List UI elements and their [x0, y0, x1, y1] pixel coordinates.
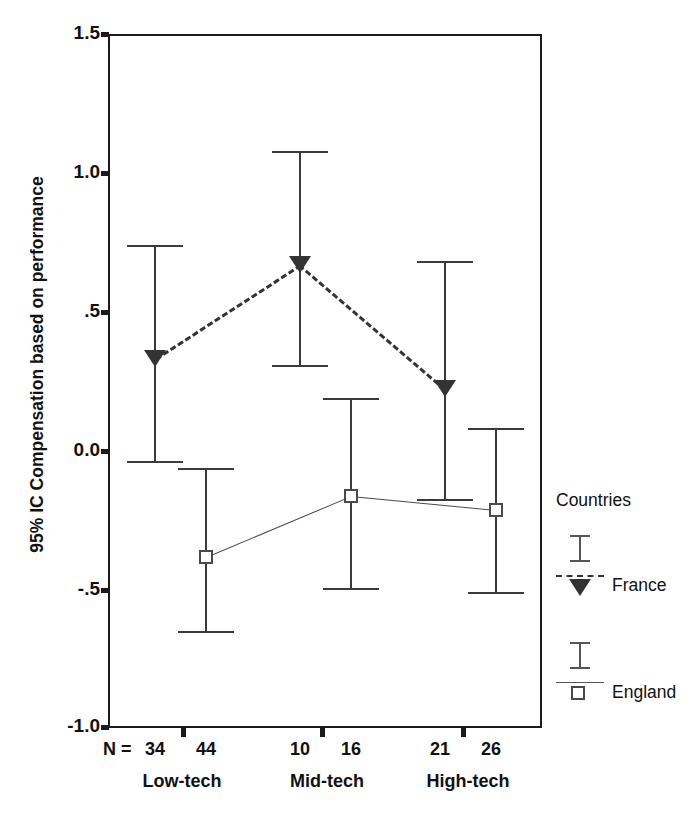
filled-down-triangle-icon	[569, 579, 591, 596]
france-errorbar-cap-lower	[272, 365, 328, 367]
x-axis-tick	[181, 728, 186, 737]
n-equals-label: N =	[103, 739, 132, 760]
france-data-marker	[144, 350, 166, 367]
england-errorbar-cap-lower	[468, 592, 524, 594]
england-errorbar-cap-lower	[178, 631, 234, 633]
england-errorbar-cap-upper	[178, 468, 234, 470]
england-data-marker	[344, 489, 358, 503]
solid-line-icon	[556, 682, 604, 683]
y-axis-tick-label: -.5	[28, 578, 100, 600]
scan-artifact	[0, 0, 691, 12]
legend-entry-france[interactable]: France	[556, 535, 691, 609]
chart-page: 95% IC Compensation based on performance…	[0, 0, 691, 824]
france-errorbar-cap-upper	[272, 151, 328, 153]
england-data-marker	[199, 550, 213, 564]
x-axis-tick	[461, 728, 466, 737]
y-axis-tick-label: 1.5	[28, 22, 100, 44]
x-axis-tick	[320, 728, 325, 737]
n-count-value: 10	[278, 739, 322, 760]
n-count-value: 16	[329, 739, 373, 760]
england-errorbar-cap-upper	[468, 428, 524, 430]
n-count-value: 34	[133, 739, 177, 760]
y-axis-tick-label: -1.0	[28, 715, 100, 737]
england-data-marker	[489, 503, 503, 517]
france-data-marker	[434, 380, 456, 397]
x-axis-group-label: High-tech	[398, 771, 538, 792]
england-errorbar-cap-lower	[323, 588, 379, 590]
legend-label-england: England	[612, 682, 676, 703]
y-axis-tick-label: 0.0	[28, 439, 100, 461]
legend-entry-england[interactable]: England	[556, 642, 691, 716]
n-count-value: 44	[184, 739, 228, 760]
y-axis-tick-label: .5	[28, 300, 100, 322]
x-axis-group-label: Low-tech	[112, 771, 252, 792]
france-data-marker	[289, 256, 311, 273]
n-count-value: 21	[418, 739, 462, 760]
plot-area	[108, 34, 542, 728]
y-axis-tick-label: 1.0	[28, 161, 100, 183]
france-errorbar-cap-lower	[417, 499, 473, 501]
legend-label-france: France	[612, 575, 666, 596]
legend-title: Countries	[556, 490, 631, 511]
x-axis-group-label: Mid-tech	[257, 771, 397, 792]
dashed-line-icon	[556, 575, 604, 577]
france-errorbar-cap-upper	[417, 261, 473, 263]
france-errorbar-cap-lower	[127, 461, 183, 463]
open-square-icon	[571, 686, 585, 700]
n-count-value: 26	[469, 739, 513, 760]
france-errorbar-cap-upper	[127, 245, 183, 247]
england-errorbar-cap-upper	[323, 398, 379, 400]
